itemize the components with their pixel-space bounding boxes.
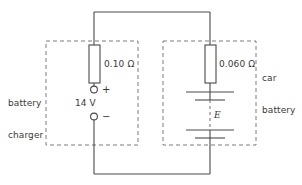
negative-terminal-sign: − [102, 112, 110, 122]
resistor-internal-car-battery [205, 45, 216, 83]
terminal-post-positive [91, 86, 98, 93]
battery-charger-block-label-line1: battery [8, 98, 46, 109]
car-battery-block-label: car battery [262, 52, 302, 136]
positive-terminal-sign: + [102, 85, 110, 95]
battery-charger-block-label: battery charger [8, 77, 46, 161]
emf-symbol-label: E [214, 110, 221, 120]
battery-charger-block-label-line2: charger [8, 130, 46, 141]
car-battery-block-label-line1: car [262, 73, 302, 84]
charger-voltage-label: 14 V [75, 98, 96, 109]
terminal-post-negative [91, 113, 98, 120]
circuit-diagram-canvas: battery charger 0.10 Ω + 14 V − 0.060 Ω … [0, 0, 302, 185]
car-battery-block-label-line2: battery [262, 105, 302, 116]
car-battery-resistor-label: 0.060 Ω [219, 59, 255, 70]
resistor-internal-charger [89, 45, 100, 83]
charger-resistor-label: 0.10 Ω [104, 59, 134, 70]
